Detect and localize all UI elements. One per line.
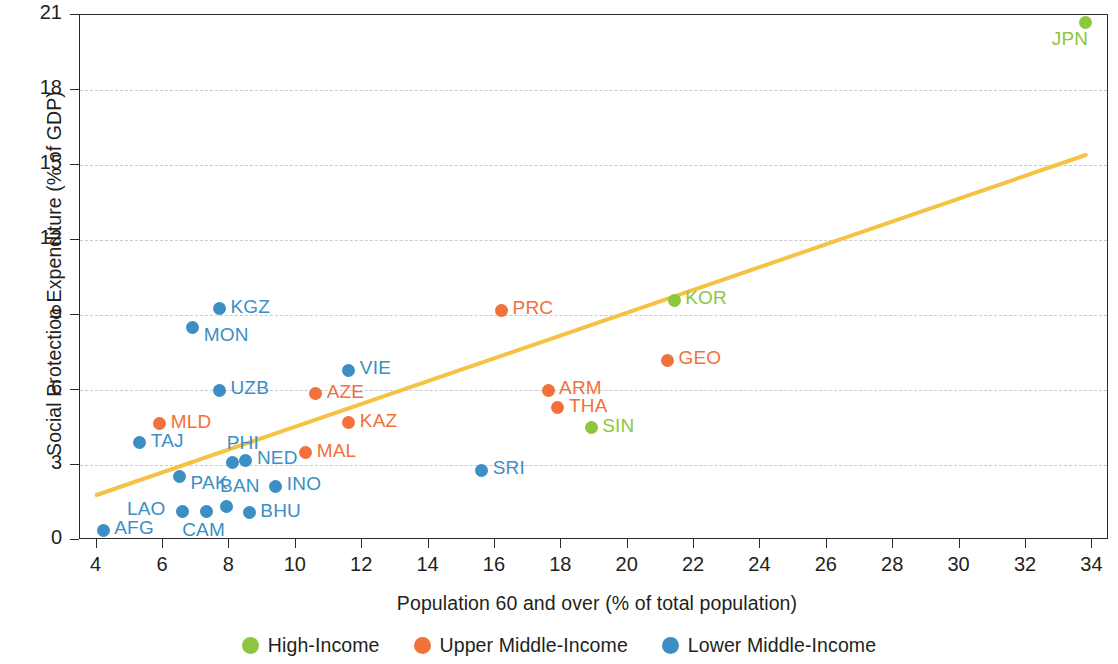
data-point-label-ban: BAN [220, 475, 260, 497]
data-point-uzb[interactable] [213, 384, 226, 397]
x-tick-label: 6 [137, 553, 187, 576]
data-point-cam[interactable] [200, 505, 213, 518]
y-tick-mark [70, 539, 79, 540]
data-point-label-sin: SIN [602, 415, 634, 437]
x-tick-mark [96, 539, 97, 548]
data-point-kor[interactable] [668, 294, 681, 307]
data-point-label-geo: GEO [679, 347, 722, 369]
x-tick-mark [959, 539, 960, 548]
data-point-label-sri: SRI [493, 457, 525, 479]
chart-legend: High-IncomeUpper Middle-IncomeLower Midd… [0, 634, 1118, 657]
x-tick-mark [228, 539, 229, 548]
x-tick-label: 20 [602, 553, 652, 576]
y-tick-label: 15 [22, 151, 62, 174]
y-tick-label: 0 [22, 526, 62, 549]
y-tick-mark [70, 314, 79, 315]
data-point-label-uzb: UZB [230, 377, 269, 399]
x-tick-label: 26 [801, 553, 851, 576]
y-tick-mark [70, 89, 79, 90]
data-point-geo[interactable] [661, 354, 674, 367]
data-point-ino[interactable] [269, 480, 282, 493]
y-tick-label: 3 [22, 451, 62, 474]
chart-root: Social Protection Expenditure (% of GDP)… [0, 0, 1118, 664]
data-point-ned[interactable] [239, 454, 252, 467]
data-point-sri[interactable] [475, 464, 488, 477]
data-point-afg[interactable] [97, 524, 110, 537]
y-tick-label: 6 [22, 376, 62, 399]
data-point-label-phi: PHI [227, 432, 259, 454]
x-tick-mark [1091, 539, 1092, 548]
legend-swatch-icon [662, 637, 679, 654]
x-tick-mark [693, 539, 694, 548]
x-tick-mark [494, 539, 495, 548]
x-tick-mark [1025, 539, 1026, 548]
x-tick-label: 22 [668, 553, 718, 576]
x-tick-mark [627, 539, 628, 548]
data-point-label-kor: KOR [685, 287, 727, 309]
x-tick-label: 14 [403, 553, 453, 576]
x-tick-label: 24 [734, 553, 784, 576]
y-tick-label: 21 [22, 1, 62, 24]
x-tick-mark [560, 539, 561, 548]
y-tick-mark [70, 164, 79, 165]
data-point-vie[interactable] [342, 364, 355, 377]
legend-label: Upper Middle-Income [440, 634, 628, 657]
legend-swatch-icon [242, 637, 259, 654]
legend-item-1[interactable]: Upper Middle-Income [414, 634, 628, 657]
x-tick-label: 28 [867, 553, 917, 576]
legend-item-0[interactable]: High-Income [242, 634, 380, 657]
legend-item-2[interactable]: Lower Middle-Income [662, 634, 876, 657]
data-point-label-taj: TAJ [151, 430, 184, 452]
legend-label: Lower Middle-Income [688, 634, 876, 657]
y-tick-label: 9 [22, 301, 62, 324]
x-tick-label: 32 [1000, 553, 1050, 576]
data-point-label-mal: MAL [317, 440, 357, 462]
data-point-label-tha: THA [569, 395, 608, 417]
x-tick-mark [162, 539, 163, 548]
x-tick-label: 16 [469, 553, 519, 576]
y-tick-mark [70, 464, 79, 465]
data-point-label-kaz: KAZ [360, 410, 398, 432]
x-tick-label: 18 [535, 553, 585, 576]
x-tick-mark [361, 539, 362, 548]
x-axis-title: Population 60 and over (% of total popul… [96, 592, 1098, 615]
data-point-label-ino: INO [287, 473, 321, 495]
data-point-label-afg: AFG [114, 517, 154, 539]
x-tick-label: 34 [1066, 553, 1116, 576]
data-point-label-mon: MON [204, 324, 249, 346]
data-point-label-bhu: BHU [260, 500, 301, 522]
x-tick-label: 10 [270, 553, 320, 576]
data-point-sin[interactable] [585, 421, 598, 434]
data-point-label-kgz: KGZ [230, 296, 270, 318]
y-tick-mark [70, 239, 79, 240]
x-tick-label: 30 [934, 553, 984, 576]
data-point-label-prc: PRC [513, 297, 554, 319]
data-point-label-aze: AZE [327, 381, 365, 403]
plot-area: JPNKORSINPRCGEOARMTHAAZEKAZMLDMALKGZMONV… [79, 14, 1108, 539]
x-tick-mark [892, 539, 893, 548]
y-tick-label: 12 [22, 226, 62, 249]
y-tick-mark [70, 389, 79, 390]
x-tick-mark [826, 539, 827, 548]
data-point-bhu[interactable] [243, 506, 256, 519]
data-point-prc[interactable] [495, 304, 508, 317]
y-tick-label: 18 [22, 76, 62, 99]
x-tick-label: 12 [336, 553, 386, 576]
x-tick-mark [295, 539, 296, 548]
data-point-pak[interactable] [173, 470, 186, 483]
data-point-label-jpn: JPN [1052, 28, 1089, 50]
x-tick-label: 4 [71, 553, 121, 576]
data-point-label-vie: VIE [360, 357, 391, 379]
data-point-arm[interactable] [542, 384, 555, 397]
data-point-label-ned: NED [257, 447, 298, 469]
legend-swatch-icon [414, 637, 431, 654]
x-tick-label: 8 [203, 553, 253, 576]
x-tick-mark [759, 539, 760, 548]
y-tick-mark [70, 14, 79, 15]
data-point-ban[interactable] [220, 500, 233, 513]
x-tick-mark [428, 539, 429, 548]
data-point-label-cam: CAM [182, 519, 225, 541]
legend-label: High-Income [268, 634, 380, 657]
